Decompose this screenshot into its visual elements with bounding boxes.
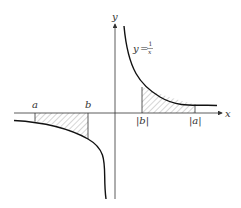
- svg-text:1: 1: [149, 40, 153, 47]
- svg-text:x: x: [148, 48, 152, 55]
- label-b: b: [85, 99, 91, 110]
- svg-text:y: y: [132, 43, 139, 54]
- x-axis-label: x: [225, 108, 231, 119]
- label-a: a: [32, 99, 38, 110]
- diagram-canvas: y x a b |b| |a| y = 1 x: [0, 0, 241, 208]
- label-abs-b: |b|: [136, 115, 149, 127]
- shaded-region-positive: [142, 87, 195, 113]
- function-label: y = 1 x: [132, 40, 153, 55]
- hyperbola-branch-negative: [14, 121, 106, 200]
- y-axis-label: y: [111, 11, 118, 22]
- label-abs-a: |a|: [189, 115, 202, 127]
- hyperbola-branch-positive: [124, 26, 217, 106]
- hyperbola-diagram: y x a b |b| |a| y = 1 x: [0, 0, 241, 208]
